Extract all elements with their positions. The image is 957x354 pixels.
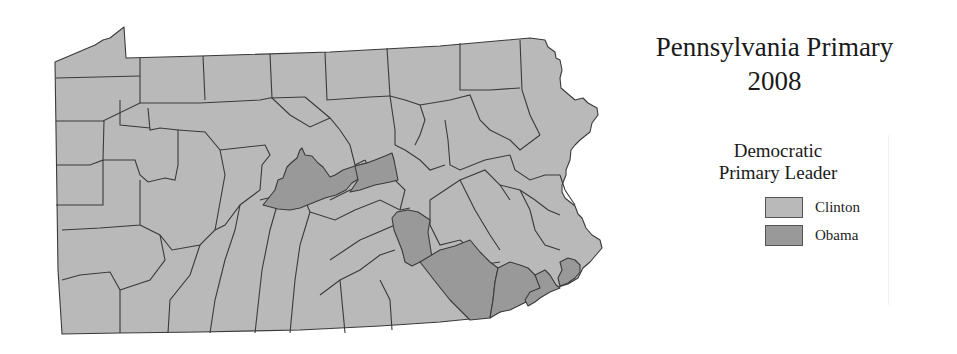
legend-swatch-clinton xyxy=(765,197,803,218)
legend-title-line2: Primary Leader xyxy=(693,162,863,184)
map-title-line1: Pennsylvania Primary xyxy=(612,30,937,64)
legend-label-clinton: Clinton xyxy=(815,199,860,216)
map-title-line2: 2008 xyxy=(612,64,937,98)
divider-line xyxy=(888,135,889,305)
legend-item-obama: Obama xyxy=(765,225,858,246)
legend-swatch-obama xyxy=(765,225,803,246)
legend-item-clinton: Clinton xyxy=(765,197,860,218)
legend-title: Democratic Primary Leader xyxy=(693,140,863,184)
county-philadelphia-obama xyxy=(558,258,580,286)
map-title: Pennsylvania Primary 2008 xyxy=(612,30,937,98)
legend-title-line1: Democratic xyxy=(693,140,863,162)
legend-label-obama: Obama xyxy=(815,227,858,244)
